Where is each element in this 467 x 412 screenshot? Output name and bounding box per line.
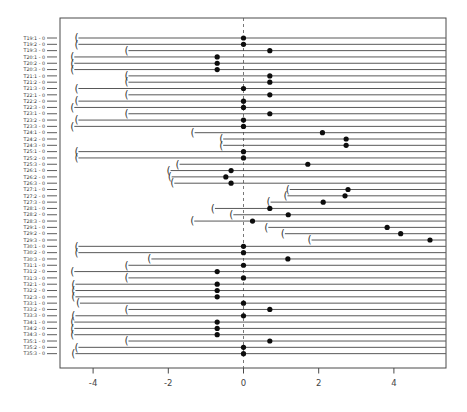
estimate-dot — [427, 237, 432, 242]
estimate-dot — [267, 48, 272, 53]
row-label: T23:2 - 0 — [22, 118, 45, 123]
interval-start-paren: ( — [190, 214, 194, 226]
x-tick-label: -2 — [164, 378, 172, 388]
row-label: T19:3 - 0 — [22, 48, 45, 53]
interval-start-paren: ( — [124, 88, 128, 100]
estimate-dot — [241, 244, 246, 249]
estimate-dot — [241, 313, 246, 318]
row-label: T30:3 - 0 — [22, 257, 45, 262]
estimate-dot — [385, 225, 390, 230]
interval-start-paren: ( — [71, 347, 75, 359]
estimate-dot — [215, 54, 220, 59]
interval-start-paren: ( — [74, 113, 78, 125]
row-label: T31:2 - 0 — [22, 269, 45, 274]
estimate-dot — [215, 294, 220, 299]
interval-start-paren: ( — [74, 82, 78, 94]
estimate-dot — [267, 307, 272, 312]
row-label: T31:1 - 0 — [22, 263, 45, 268]
estimate-dot — [398, 231, 403, 236]
interval-start-paren: ( — [264, 221, 268, 233]
estimate-dot — [241, 275, 246, 280]
row-label: T21:2 - 0 — [22, 80, 45, 85]
row-label: T23:1 - 0 — [22, 111, 45, 116]
estimate-dot — [241, 86, 246, 91]
row-label: T24:1 - 0 — [22, 130, 45, 135]
interval-start-paren: ( — [74, 94, 78, 106]
row-label: T34:1 - 0 — [22, 320, 45, 325]
estimate-dot — [320, 130, 325, 135]
estimate-dot — [286, 212, 291, 217]
row-label: T33:3 - 0 — [22, 313, 45, 318]
interval-start-paren: ( — [147, 252, 151, 264]
figure: T19:1 - 0(T19:2 - 0(T19:3 - 0(T20:1 - 0(… — [0, 0, 467, 412]
row-label: T31:3 - 0 — [22, 276, 45, 281]
estimate-dot — [241, 105, 246, 110]
interval-start-paren: ( — [124, 44, 128, 56]
row-label: T21:3 - 0 — [22, 86, 45, 91]
estimate-dot — [241, 263, 246, 268]
row-label: T33:1 - 0 — [22, 301, 45, 306]
estimate-dot — [223, 174, 228, 179]
row-label: T28:3 - 0 — [22, 219, 45, 224]
row-label: T35:1 - 0 — [22, 339, 45, 344]
interval-start-paren: ( — [76, 296, 80, 308]
row-label: T20:1 - 0 — [22, 55, 45, 60]
estimate-dot — [241, 345, 246, 350]
estimate-dot — [285, 256, 290, 261]
row-label: T30:1 - 0 — [22, 244, 45, 249]
estimate-dot — [267, 92, 272, 97]
estimate-dot — [321, 200, 326, 205]
row-label: T28:1 - 0 — [22, 206, 45, 211]
x-tick-label: 4 — [391, 378, 396, 388]
estimate-dot — [267, 73, 272, 78]
row-label: T26:2 - 0 — [22, 175, 45, 180]
interval-start-paren: ( — [211, 202, 215, 214]
row-label: T32:2 - 0 — [22, 288, 45, 293]
row-label: T22:3 - 0 — [22, 105, 45, 110]
interval-start-paren: ( — [124, 334, 128, 346]
row-label: T27:1 - 0 — [22, 187, 45, 192]
row-label: T32:1 - 0 — [22, 282, 45, 287]
row-label: T33:2 - 0 — [22, 307, 45, 312]
estimate-dot — [215, 67, 220, 72]
interval-start-paren: ( — [307, 233, 311, 245]
estimate-dot — [215, 319, 220, 324]
estimate-dot — [215, 332, 220, 337]
estimate-dot — [250, 218, 255, 223]
row-label: T27:3 - 0 — [22, 200, 45, 205]
estimate-dot — [215, 288, 220, 293]
x-tick-label: 2 — [316, 378, 321, 388]
row-label: T29:1 - 0 — [22, 225, 45, 230]
estimate-dot — [305, 162, 310, 167]
row-label: T25:2 - 0 — [22, 156, 45, 161]
estimate-dot — [241, 149, 246, 154]
estimate-dot — [241, 42, 246, 47]
row-label: T32:3 - 0 — [22, 295, 45, 300]
interval-start-paren: ( — [74, 38, 78, 50]
row-label: T28:2 - 0 — [22, 212, 45, 217]
row-label: T29:3 - 0 — [22, 238, 45, 243]
interval-start-paren: ( — [124, 303, 128, 315]
estimate-dot — [215, 282, 220, 287]
estimate-dot — [345, 187, 350, 192]
interval-start-paren: ( — [70, 265, 74, 277]
row-label: T20:2 - 0 — [22, 61, 45, 66]
row-label: T22:1 - 0 — [22, 93, 45, 98]
row-label: T20:3 - 0 — [22, 67, 45, 72]
interval-start-paren: ( — [191, 126, 195, 138]
row-label: T30:2 - 0 — [22, 250, 45, 255]
interval-start-paren: ( — [70, 120, 74, 132]
estimate-dot — [342, 193, 347, 198]
row-label: T26:3 - 0 — [22, 181, 45, 186]
interval-start-paren: ( — [229, 208, 233, 220]
estimate-dot — [344, 143, 349, 148]
interval-start-paren: ( — [124, 107, 128, 119]
interval-start-paren: ( — [267, 195, 271, 207]
interval-plot: T19:1 - 0(T19:2 - 0(T19:3 - 0(T20:1 - 0(… — [0, 0, 467, 412]
estimate-dot — [241, 35, 246, 40]
interval-start-paren: ( — [124, 271, 128, 283]
interval-start-paren: ( — [70, 328, 74, 340]
estimate-dot — [241, 155, 246, 160]
row-label: T25:3 - 0 — [22, 162, 45, 167]
estimate-dot — [241, 99, 246, 104]
